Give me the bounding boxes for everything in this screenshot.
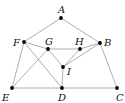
point-C xyxy=(115,86,119,90)
point-H xyxy=(78,47,82,51)
point-F xyxy=(22,40,26,44)
label-B: B xyxy=(103,37,111,48)
label-E: E xyxy=(1,92,10,103)
label-G: G xyxy=(45,36,53,47)
label-A: A xyxy=(57,4,65,15)
label-H: H xyxy=(74,36,84,47)
label-C: C xyxy=(116,92,124,103)
point-E xyxy=(10,86,14,90)
label-I: I xyxy=(66,66,72,77)
edges xyxy=(12,18,117,88)
geometry-diagram: ABCDEFGHI xyxy=(0,0,125,103)
edge-ID xyxy=(62,67,63,88)
points xyxy=(10,16,119,90)
point-A xyxy=(59,16,63,20)
edge-AF xyxy=(24,18,61,42)
point-G xyxy=(46,47,50,51)
edge-BC xyxy=(100,43,117,88)
label-F: F xyxy=(12,37,21,48)
point-I xyxy=(61,65,65,69)
edge-GI xyxy=(48,49,63,67)
label-D: D xyxy=(57,92,66,103)
point-B xyxy=(98,41,102,45)
point-D xyxy=(60,86,64,90)
